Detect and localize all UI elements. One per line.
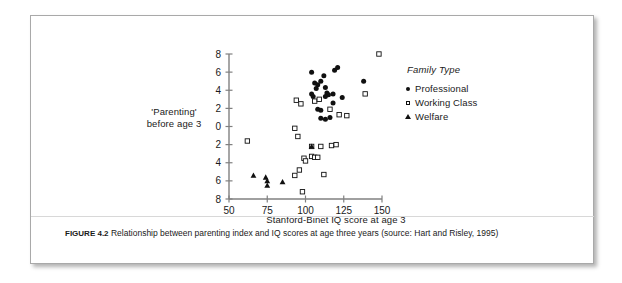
x-axis-tick-label: 125: [335, 205, 352, 216]
y-axis-tick-label: 2: [215, 103, 221, 114]
data-point-working-class: [300, 190, 304, 194]
x-axis-tick-label: 75: [262, 205, 274, 216]
data-point-professional: [318, 116, 323, 121]
data-points-layer: [245, 52, 381, 194]
data-point-working-class: [293, 126, 297, 130]
figure-caption: FIGURE 4.2 Relationship between parentin…: [65, 228, 565, 239]
legend-entry-label: Welfare: [415, 111, 448, 122]
legend-title: Family Type: [407, 64, 541, 75]
figure-caption-text: Relationship between parenting index and…: [111, 228, 498, 238]
data-point-professional: [323, 117, 328, 122]
x-axis-tick-label: 150: [374, 205, 391, 216]
legend-entry: Working Class: [401, 96, 541, 109]
data-point-working-class: [293, 173, 297, 177]
data-point-working-class: [316, 155, 320, 159]
data-point-professional: [335, 65, 340, 70]
y-axis-tick-label: 2: [215, 139, 221, 150]
x-axis-tick-label: 100: [297, 205, 314, 216]
data-point-professional: [309, 70, 314, 75]
filled-circle-icon: [401, 87, 415, 91]
data-point-welfare: [264, 183, 270, 188]
data-point-working-class: [322, 172, 326, 176]
figure-card: 'Parenting' before age 3 Stanford-Binet …: [30, 15, 594, 264]
data-point-professional: [331, 100, 336, 105]
x-axis-tick-label: 50: [223, 205, 235, 216]
data-point-working-class: [294, 98, 298, 102]
data-point-working-class: [337, 113, 341, 117]
data-point-professional: [323, 94, 328, 99]
data-point-working-class: [329, 143, 333, 147]
data-point-professional: [318, 79, 323, 84]
data-point-professional: [327, 115, 332, 120]
y-axis-tick-label: 8: [215, 194, 221, 205]
y-axis-tick-label: 6: [215, 175, 221, 186]
data-point-working-class: [319, 144, 323, 148]
legend-entry: Welfare: [401, 110, 541, 123]
filled-triangle-icon: [401, 114, 415, 119]
legend-entries: ProfessionalWorking ClassWelfare: [401, 82, 541, 123]
y-axis-tick-label: 8: [215, 49, 221, 60]
legend-entry: Professional: [401, 82, 541, 95]
figure-caption-label: FIGURE 4.2: [65, 229, 109, 238]
data-point-professional: [331, 91, 336, 96]
series-welfare: [251, 144, 315, 188]
data-point-professional: [314, 86, 319, 91]
data-point-working-class: [245, 139, 249, 143]
y-axis-tick-label: 6: [215, 67, 221, 78]
data-point-working-class: [297, 168, 301, 172]
y-axis-tick-label: 4: [215, 85, 221, 96]
figure-plot-area: 'Parenting' before age 3 Stanford-Binet …: [31, 16, 595, 211]
data-point-working-class: [334, 142, 338, 146]
data-point-working-class: [317, 97, 321, 101]
data-point-working-class: [303, 159, 307, 163]
data-point-working-class: [312, 99, 316, 103]
y-axis-tick-label: 4: [215, 157, 221, 168]
caption-divider: [31, 216, 594, 217]
legend-entry-label: Professional: [415, 83, 468, 94]
data-point-professional: [323, 85, 328, 90]
data-point-professional: [321, 73, 326, 78]
data-point-professional: [311, 94, 316, 99]
data-point-professional: [361, 79, 366, 84]
data-point-working-class: [328, 107, 332, 111]
data-point-professional: [318, 108, 323, 113]
data-point-working-class: [296, 134, 300, 138]
data-point-welfare: [251, 173, 257, 178]
data-point-working-class: [299, 102, 303, 106]
data-point-professional: [340, 95, 345, 100]
data-point-working-class: [377, 52, 381, 56]
y-axis-tick-label: 0: [215, 121, 221, 132]
data-point-working-class: [345, 113, 349, 117]
open-square-icon: [401, 101, 415, 105]
data-point-working-class: [363, 92, 367, 96]
legend-entry-label: Working Class: [415, 97, 477, 108]
data-point-welfare: [280, 179, 286, 184]
data-point-welfare: [263, 174, 269, 179]
legend: Family Type ProfessionalWorking ClassWel…: [401, 64, 541, 124]
